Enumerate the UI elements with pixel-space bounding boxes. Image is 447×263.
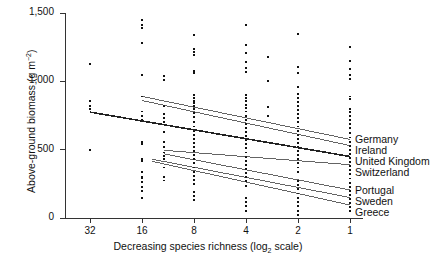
data-point bbox=[245, 131, 247, 133]
data-point bbox=[349, 186, 351, 188]
regression-line-united-kingdom bbox=[90, 112, 350, 156]
data-point bbox=[193, 70, 195, 72]
data-point bbox=[193, 175, 195, 177]
data-point bbox=[245, 127, 247, 129]
data-point bbox=[193, 154, 195, 156]
data-point bbox=[297, 93, 299, 95]
data-point bbox=[245, 97, 247, 99]
x-axis-title-paren: scale) bbox=[272, 240, 303, 252]
data-point bbox=[163, 152, 165, 154]
data-point bbox=[297, 205, 299, 207]
data-point bbox=[193, 51, 195, 53]
data-point bbox=[349, 178, 351, 180]
data-point bbox=[349, 141, 351, 143]
data-point bbox=[349, 98, 351, 100]
data-point bbox=[349, 173, 351, 175]
data-point bbox=[141, 19, 143, 21]
data-point bbox=[245, 24, 247, 26]
data-point bbox=[245, 67, 247, 69]
data-point bbox=[193, 121, 195, 123]
data-point bbox=[297, 126, 299, 128]
data-point bbox=[163, 180, 165, 182]
data-point bbox=[245, 111, 247, 113]
data-point bbox=[297, 33, 299, 35]
data-point bbox=[245, 115, 247, 117]
data-point bbox=[141, 27, 143, 29]
data-point bbox=[297, 72, 299, 74]
data-point bbox=[163, 167, 165, 169]
y-axis-ticks bbox=[60, 13, 65, 218]
data-point bbox=[297, 162, 299, 164]
data-point bbox=[245, 147, 247, 149]
data-point bbox=[141, 171, 143, 173]
data-point bbox=[193, 199, 195, 201]
data-point bbox=[297, 142, 299, 144]
y-axis-title-paren: ) bbox=[25, 50, 37, 54]
legend-item-switzerland: Switzerland bbox=[355, 166, 409, 178]
data-point bbox=[267, 80, 269, 82]
data-point bbox=[349, 194, 351, 196]
data-point bbox=[89, 105, 91, 107]
data-point bbox=[297, 214, 299, 216]
data-point bbox=[163, 158, 165, 160]
data-point bbox=[141, 190, 143, 192]
data-point bbox=[245, 205, 247, 207]
data-point bbox=[245, 143, 247, 145]
data-point bbox=[163, 75, 165, 77]
data-point bbox=[297, 167, 299, 169]
data-point bbox=[297, 109, 299, 111]
data-point bbox=[297, 86, 299, 88]
data-point bbox=[245, 94, 247, 96]
x-axis-title: Decreasing species richness (log2 scale) bbox=[65, 240, 351, 254]
data-point bbox=[245, 104, 247, 106]
data-point bbox=[245, 61, 247, 63]
x-tick-label: 1 bbox=[335, 225, 365, 236]
y-axis-title-superscript: −2 bbox=[25, 53, 32, 61]
data-point bbox=[297, 138, 299, 140]
data-point bbox=[245, 52, 247, 54]
x-tick-label: 8 bbox=[179, 225, 209, 236]
data-point bbox=[163, 79, 165, 81]
data-point bbox=[297, 188, 299, 190]
data-point bbox=[193, 183, 195, 185]
data-point bbox=[297, 105, 299, 107]
data-point bbox=[349, 60, 351, 62]
data-point bbox=[245, 160, 247, 162]
data-point bbox=[141, 42, 143, 44]
data-point bbox=[193, 54, 195, 56]
chart-figure: Above-ground biomass (g m−2) Decreasing … bbox=[0, 0, 447, 263]
data-point bbox=[163, 121, 165, 123]
data-point bbox=[193, 97, 195, 99]
data-point bbox=[245, 197, 247, 199]
data-point bbox=[141, 186, 143, 188]
data-point bbox=[349, 96, 351, 98]
data-point bbox=[193, 191, 195, 193]
data-point bbox=[297, 171, 299, 173]
data-point bbox=[349, 132, 351, 134]
data-point bbox=[297, 121, 299, 123]
data-point bbox=[349, 182, 351, 184]
data-point bbox=[297, 197, 299, 199]
data-point bbox=[141, 24, 143, 26]
data-point bbox=[245, 100, 247, 102]
data-point bbox=[349, 202, 351, 204]
data-point bbox=[193, 134, 195, 136]
data-point bbox=[193, 34, 195, 36]
y-tick-label: 1,500 bbox=[10, 6, 54, 17]
data-point bbox=[349, 149, 351, 151]
x-tick-label: 16 bbox=[127, 225, 157, 236]
x-axis-ticks bbox=[90, 218, 350, 223]
data-point bbox=[193, 94, 195, 96]
data-point bbox=[193, 100, 195, 102]
data-point bbox=[349, 119, 351, 121]
data-point bbox=[297, 184, 299, 186]
data-point bbox=[245, 107, 247, 109]
data-point bbox=[349, 127, 351, 129]
data-point bbox=[193, 179, 195, 181]
data-point bbox=[245, 119, 247, 121]
data-point bbox=[349, 169, 351, 171]
data-point bbox=[349, 210, 351, 212]
data-point bbox=[297, 117, 299, 119]
data-point bbox=[163, 113, 165, 115]
data-point bbox=[297, 130, 299, 132]
